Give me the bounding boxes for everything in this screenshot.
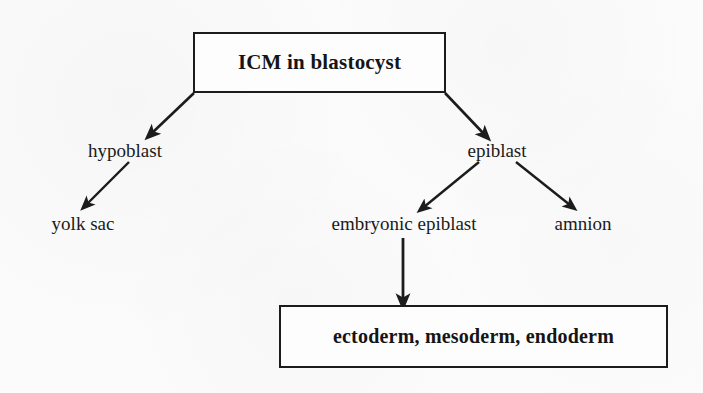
edge-epiblast-to-amnion [516,162,570,205]
node-yolk-sac: yolk sac [52,213,115,235]
edge-epiblast-to-embryonic-epiblast [424,162,479,207]
node-icm-label: ICM in blastocyst [238,50,401,75]
node-germ-layers: ectoderm, mesoderm, endoderm [279,305,668,368]
edge-hypoblast-to-yolk-sac [87,162,129,204]
node-germ-layers-label: ectoderm, mesoderm, endoderm [333,325,614,348]
node-epiblast: epiblast [467,140,526,162]
node-hypoblast: hypoblast [88,140,162,162]
node-amnion: amnion [555,213,612,235]
edge-icm-to-hypoblast [152,93,194,133]
diagram-canvas: ICM in blastocyst hypoblast yolk sac epi… [0,0,703,393]
node-icm-in-blastocyst: ICM in blastocyst [193,32,446,93]
edge-icm-to-epiblast [445,93,484,134]
node-embryonic-epiblast: embryonic epiblast [331,213,476,235]
